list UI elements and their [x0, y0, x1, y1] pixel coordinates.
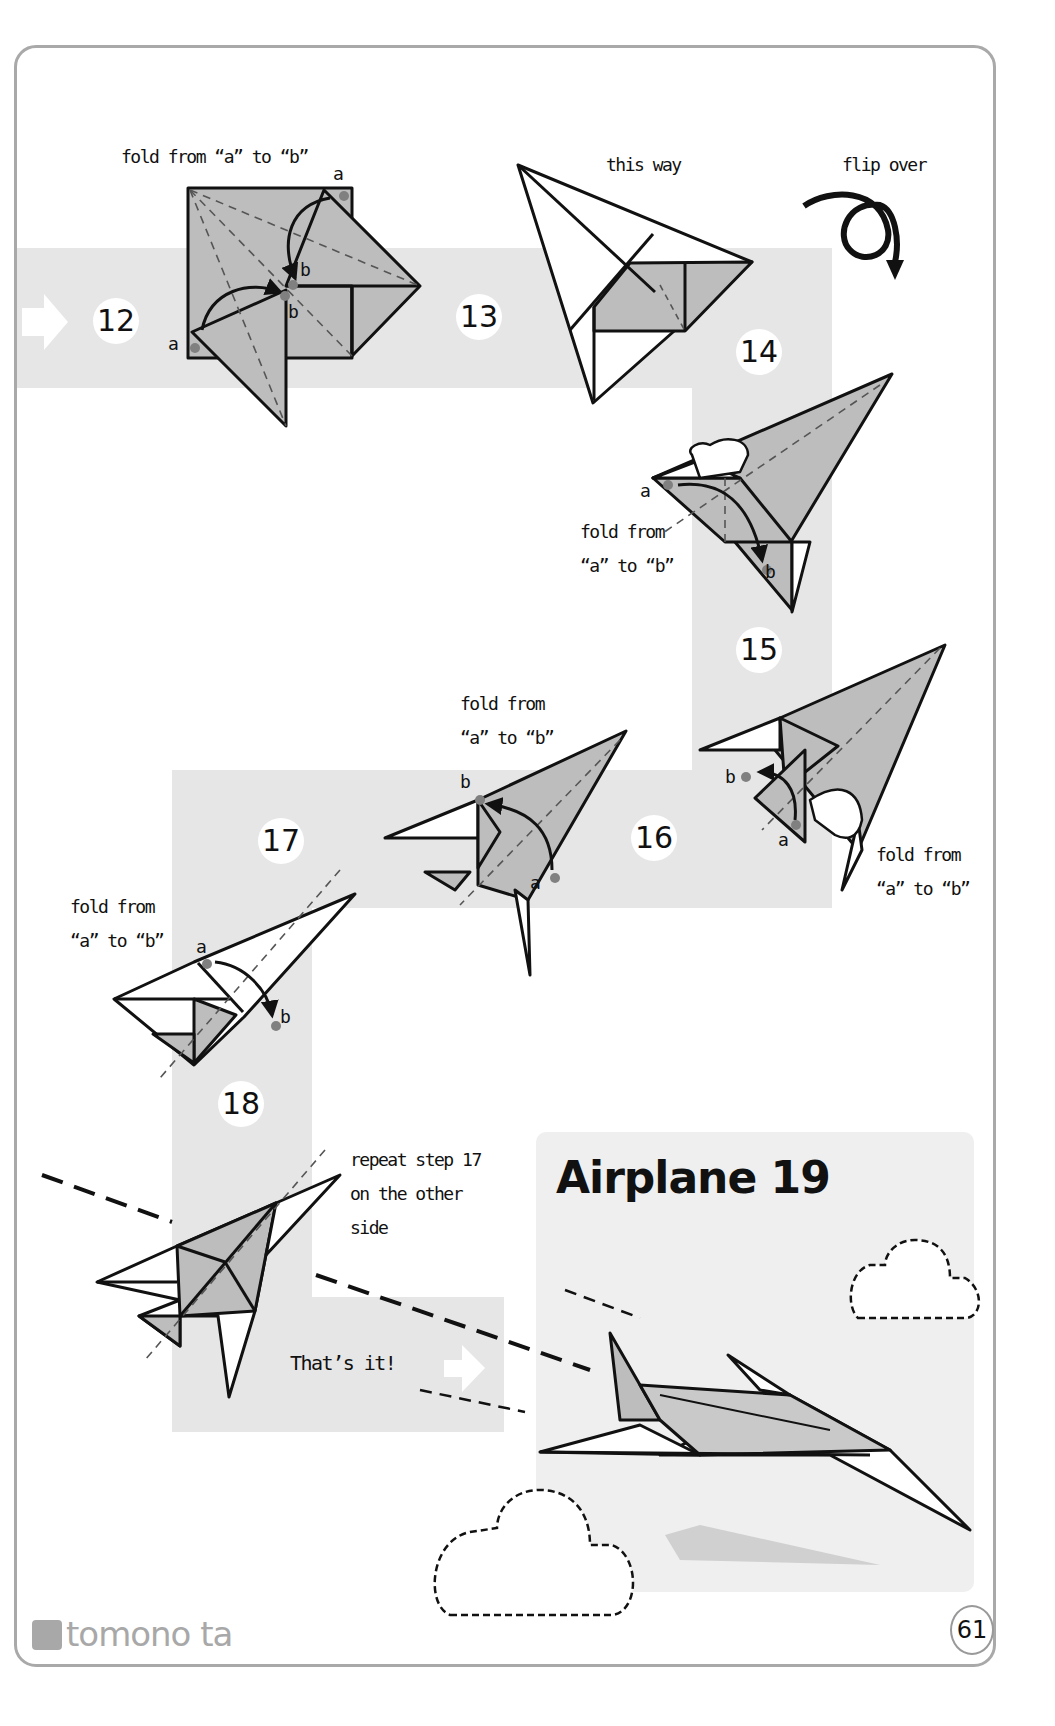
model-title: Airplane 19: [556, 1152, 830, 1203]
point-label-b: b: [725, 760, 734, 794]
flip-over-label: flip over: [842, 148, 926, 182]
finish-arrow-icon: [444, 1345, 485, 1392]
step12-diagram: [188, 188, 420, 426]
cloud-icon: [435, 1490, 633, 1615]
step-number-17: 17: [258, 818, 304, 864]
point-label-a: a: [778, 823, 787, 857]
point-label-a: a: [196, 930, 205, 964]
page-number: 61: [950, 1605, 994, 1655]
point-label-a: a: [530, 866, 539, 900]
step14-instruction: fold from “a” to “b”: [580, 515, 673, 583]
point-label-b: b: [460, 765, 469, 799]
point-label-a: a: [168, 327, 177, 361]
step12-instruction: fold from “a” to “b”: [121, 140, 308, 174]
point-label-b: b: [300, 253, 309, 287]
publisher-logo: tomono ta: [32, 1614, 232, 1654]
pointing-hand-icon: [690, 439, 748, 478]
step16-instruction: fold from “a” to “b”: [460, 687, 553, 755]
cloud-icon: [851, 1240, 979, 1318]
step16-diagram: [385, 731, 626, 975]
step-number-16: 16: [631, 815, 677, 861]
start-arrow-icon: [22, 294, 68, 350]
step18-instruction: repeat step 17 on the other side: [350, 1143, 481, 1245]
point-label-b: b: [280, 1000, 289, 1034]
step-number-12: 12: [93, 298, 139, 344]
flip-over-arrow-icon: [804, 195, 904, 280]
airplane-shadow: [665, 1525, 880, 1565]
point-label-a: a: [333, 157, 342, 191]
step15-instruction: fold from “a” to “b”: [876, 838, 969, 906]
point-label-b: b: [765, 555, 774, 589]
step-number-14: 14: [736, 329, 782, 375]
finish-label: That’s it!: [290, 1346, 395, 1380]
finished-airplane-illustration: [540, 1333, 970, 1530]
step13-instruction: this way: [606, 148, 681, 182]
pointing-hand-icon: [810, 790, 862, 838]
step13-diagram: [518, 165, 752, 403]
step-number-18: 18: [218, 1081, 264, 1127]
point-label-b: b: [288, 295, 297, 329]
step-number-15: 15: [736, 627, 782, 673]
point-label-a: a: [640, 474, 649, 508]
logo-icon: [32, 1620, 62, 1650]
step-number-13: 13: [456, 294, 502, 340]
step17-instruction: fold from “a” to “b”: [70, 890, 163, 958]
